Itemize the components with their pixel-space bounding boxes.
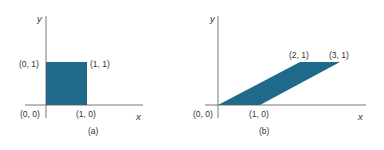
label-a-01: (0, 1) xyxy=(19,59,39,69)
caption-b: (b) xyxy=(259,126,270,136)
label-b-10: (1, 0) xyxy=(249,109,269,119)
y-axis-label-a: y xyxy=(36,13,43,24)
label-b-21: (2, 1) xyxy=(289,50,309,60)
shear-transform-diagram: y x (0, 1) (1, 1) (0, 0) (1, 0) (a) y x … xyxy=(0,0,384,150)
label-a-10: (1, 0) xyxy=(76,109,96,119)
panel-a: y x (0, 1) (1, 1) (0, 0) (1, 0) (a) xyxy=(19,13,143,136)
label-a-00: (0, 0) xyxy=(20,109,40,119)
sheared-parallelogram xyxy=(218,62,340,105)
label-b-31: (3, 1) xyxy=(329,50,349,60)
y-axis-label-b: y xyxy=(209,13,216,24)
unit-square xyxy=(46,62,87,105)
label-b-00: (0, 0) xyxy=(193,109,213,119)
label-a-11: (1, 1) xyxy=(90,59,110,69)
panel-b: y x (2, 1) (3, 1) (0, 0) (1, 0) (b) xyxy=(193,13,366,136)
x-axis-label-a: x xyxy=(135,111,142,122)
caption-a: (a) xyxy=(88,126,99,136)
x-axis-label-b: x xyxy=(357,111,364,122)
